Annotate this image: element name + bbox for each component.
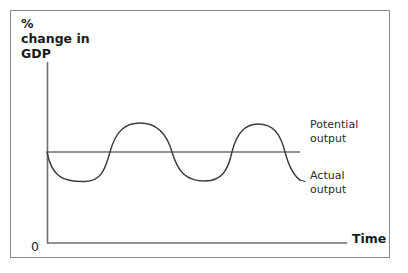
origin-label: 0 xyxy=(31,239,39,254)
x-axis-title: Time xyxy=(352,232,386,247)
actual-output-leader xyxy=(300,180,305,182)
actual-output-label: Actual output xyxy=(310,169,346,197)
figure-screenshot: % change in GDP Time 0 Potential output … xyxy=(0,0,408,273)
y-axis-title: % change in GDP xyxy=(21,17,90,61)
potential-output-label: Potential output xyxy=(310,118,358,146)
